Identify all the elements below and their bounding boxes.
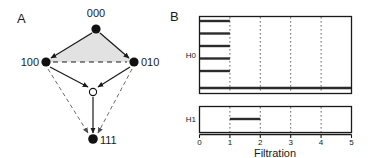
node-label-111: 111 [100, 134, 117, 146]
node-111 [88, 134, 98, 144]
x-axis-title: Filtration [254, 147, 296, 158]
edge-010-111-dashed [98, 69, 132, 133]
panel-b-barcode: 0 1 2 3 4 5 H0 H1 Filtration [183, 0, 369, 158]
edge-100-111-dashed [48, 69, 88, 133]
edge-010-mid [98, 67, 130, 87]
panel-b-letter: B [170, 10, 179, 23]
row-label-h0: H0 [186, 51, 197, 60]
panel-a-graph: 000 100 010 111 [0, 0, 183, 158]
edge-100-mid [50, 67, 88, 87]
h0-plot-frame [200, 17, 352, 94]
figure-container: A 000 100 010 111 [0, 0, 369, 158]
node-010 [129, 57, 138, 66]
x-tick-label: 3 [288, 138, 293, 147]
row-label-h1: H1 [186, 115, 197, 124]
x-tick-label: 5 [349, 138, 354, 147]
node-label-100: 100 [21, 56, 39, 68]
x-tick-label: 1 [228, 138, 233, 147]
node-mid-open [89, 88, 96, 95]
node-000 [91, 24, 100, 33]
h1-plot-frame [200, 107, 352, 133]
node-label-000: 000 [87, 7, 105, 19]
x-tick-label: 2 [258, 138, 263, 147]
x-tick-label: 0 [197, 138, 202, 147]
x-tick-label: 4 [319, 138, 324, 147]
node-100 [41, 57, 50, 66]
node-label-010: 010 [141, 56, 159, 68]
